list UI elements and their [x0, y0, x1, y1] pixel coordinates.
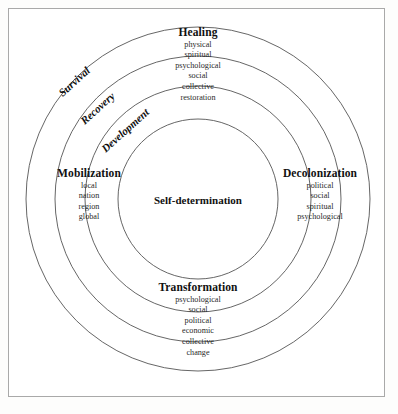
- sector-transformation-term: change: [118, 348, 278, 359]
- sector-healing-heading: Healing: [118, 26, 278, 38]
- sector-healing-term: physical: [118, 40, 278, 51]
- sector-transformation-term: social: [118, 305, 278, 316]
- sector-transformation-term: political: [118, 316, 278, 327]
- sector-healing: Healing physical spiritual psychological…: [118, 26, 278, 103]
- sector-transformation-term: economic: [118, 326, 278, 337]
- sector-mobilization-term: region: [9, 202, 169, 213]
- sector-transformation-term: collective: [118, 337, 278, 348]
- sector-healing-term: spiritual: [118, 50, 278, 61]
- sector-decolonization-term: social: [240, 191, 398, 202]
- sector-decolonization: Decolonization political social spiritua…: [240, 167, 398, 223]
- sector-healing-term: collective: [118, 82, 278, 93]
- sector-transformation-term: psychological: [118, 295, 278, 306]
- sector-decolonization-heading: Decolonization: [240, 167, 398, 179]
- sector-decolonization-term: political: [240, 181, 398, 192]
- sector-transformation-heading: Transformation: [118, 281, 278, 293]
- sector-mobilization: Mobilization local nation region global: [9, 167, 169, 223]
- sector-healing-term: social: [118, 71, 278, 82]
- diagram-page: Self-determination Survival Recovery Dev…: [0, 0, 398, 414]
- sector-healing-term: restoration: [118, 93, 278, 104]
- sector-decolonization-term: psychological: [240, 212, 398, 223]
- sector-mobilization-term: nation: [9, 191, 169, 202]
- sector-transformation: Transformation psychological social poli…: [118, 281, 278, 358]
- sector-decolonization-term: spiritual: [240, 202, 398, 213]
- sector-mobilization-heading: Mobilization: [9, 167, 169, 179]
- sector-healing-term: psychological: [118, 61, 278, 72]
- sector-mobilization-term: local: [9, 181, 169, 192]
- sector-mobilization-term: global: [9, 212, 169, 223]
